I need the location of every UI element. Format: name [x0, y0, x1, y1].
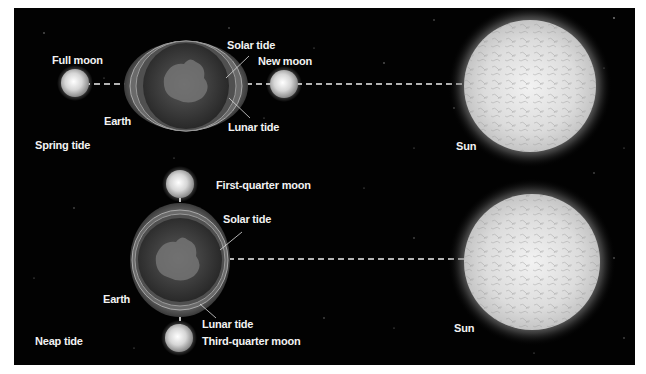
full-moon: [57, 65, 93, 101]
earth-label: Earth: [104, 116, 131, 127]
sun-label-neap: Sun: [454, 323, 474, 334]
first-quarter-moon: [162, 166, 198, 202]
third-quarter-moon: [161, 320, 197, 356]
solar-tide-label-neap: Solar tide: [223, 214, 271, 225]
third-quarter-moon-label: Third-quarter moon: [202, 336, 300, 347]
new-moon: [266, 66, 302, 102]
earth-label-neap: Earth: [103, 294, 130, 305]
lunar-tide-label: Lunar tide: [228, 122, 279, 133]
tide-diagram: Full moon New moon Solar tide Lunar tide…: [14, 8, 635, 365]
neap-tide-title: Neap tide: [35, 336, 83, 347]
spring-tide-group: [57, 8, 612, 168]
lunar-tide-label-neap: Lunar tide: [202, 319, 253, 330]
solar-tide-label: Solar tide: [227, 40, 275, 51]
first-quarter-moon-label: First-quarter moon: [216, 180, 311, 191]
diagram-canvas: [14, 8, 635, 365]
spring-tide-title: Spring tide: [35, 140, 90, 151]
sun-label: Sun: [456, 141, 476, 152]
earth-neap: [130, 203, 230, 317]
new-moon-label: New moon: [258, 56, 312, 67]
full-moon-label: Full moon: [52, 55, 103, 66]
earth-spring: [124, 41, 248, 131]
sun-neap: [448, 178, 616, 346]
